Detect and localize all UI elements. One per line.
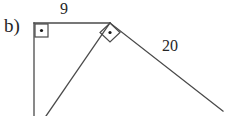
right-angle-dot-icon <box>108 31 111 34</box>
figure-canvas <box>0 0 238 116</box>
figure-background <box>0 0 238 116</box>
part-label: b) <box>4 16 20 35</box>
geometry-figure: b) 9 20 <box>0 0 238 116</box>
right-angle-dot-icon <box>40 29 43 32</box>
side-length-label-right: 20 <box>162 38 178 54</box>
side-length-label-top: 9 <box>60 1 68 17</box>
